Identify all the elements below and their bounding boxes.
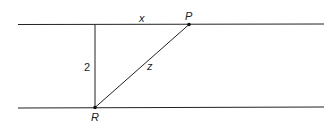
segment-z xyxy=(95,25,189,108)
top-line xyxy=(18,24,324,25)
label-R: R xyxy=(91,112,99,123)
point-P xyxy=(187,23,191,27)
label-2: 2 xyxy=(84,62,90,73)
point-R xyxy=(93,106,97,110)
label-x: x xyxy=(139,13,145,24)
label-P: P xyxy=(185,11,192,22)
label-z: z xyxy=(147,61,153,72)
bottom-line xyxy=(18,107,324,108)
diagram-canvas xyxy=(0,0,336,129)
